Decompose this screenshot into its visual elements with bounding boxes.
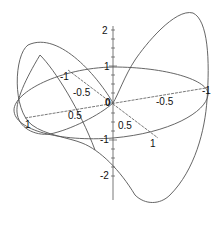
- origin-label: 0: [105, 98, 111, 108]
- y-tick-label-0.5: 0.5: [68, 111, 82, 121]
- y-axis: [25, 88, 206, 118]
- x-tick-label-0.5: 0.5: [118, 121, 132, 131]
- z-tick-label-minus-1: -1: [100, 135, 109, 145]
- y-tick-label-1: 1: [25, 120, 31, 130]
- 3d-plot: [0, 0, 219, 225]
- x-tick-label-1: 1: [150, 139, 156, 149]
- y-tick-label-minus-1: -1: [202, 86, 211, 96]
- z-tick-label-1: 1: [104, 62, 110, 72]
- x-tick-label-minus-1: -1: [60, 72, 69, 82]
- z-tick-label-2: 2: [102, 26, 108, 36]
- z-tick-label-minus-2: -2: [100, 171, 109, 181]
- space-curve-inner: [17, 55, 113, 150]
- y-tick-label-minus-0.5: -0.5: [156, 97, 173, 107]
- x-tick-label-minus-0.5: -0.5: [73, 88, 90, 98]
